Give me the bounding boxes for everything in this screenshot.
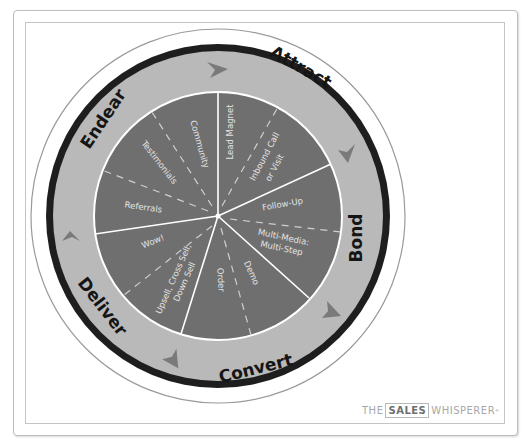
segment-label-lead-magnet: Lead Magnet [225, 104, 235, 160]
sales-whisperer-logo: THE SALES WHISPERER ® [362, 403, 500, 418]
logo-suffix: WHISPERER [431, 405, 495, 416]
stage-label-bond: Bond [346, 214, 366, 263]
center-point [216, 214, 221, 219]
segment-label-order: Order [215, 267, 227, 292]
logo-boxed-word: SALES [385, 403, 429, 418]
logo-prefix: THE [362, 405, 383, 416]
sales-cycle-wheel: Lead Magnet Inbound Call or Visit Follow… [0, 0, 530, 444]
registered-mark: ® [495, 408, 500, 413]
